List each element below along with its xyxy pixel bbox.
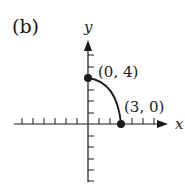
y-axis-label: y [83, 18, 93, 36]
point-label-0-4: (0, 4) [98, 63, 138, 81]
y-axis-arrow-icon [84, 40, 92, 51]
x-axis: x [14, 115, 184, 133]
point-label-3-0: (3, 0) [124, 98, 164, 116]
point-3-0 [117, 120, 125, 128]
x-axis-label: x [175, 115, 184, 133]
panel-label: (b) [12, 15, 39, 37]
y-axis: y [83, 18, 94, 182]
figure-panel-b: (b) x [0, 0, 185, 191]
x-axis-arrow-icon [157, 120, 168, 128]
point-0-4 [84, 74, 92, 82]
